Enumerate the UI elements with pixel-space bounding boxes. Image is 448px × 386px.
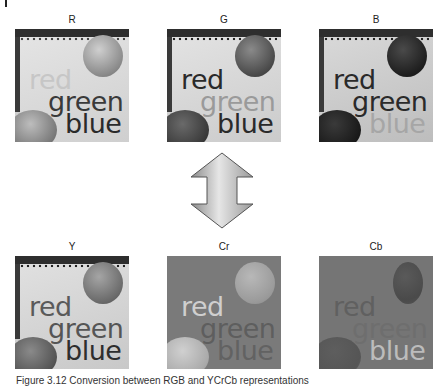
- page-edge-mark: [5, 0, 7, 7]
- label-y: Y: [15, 242, 129, 252]
- word-blue: blue: [217, 111, 273, 137]
- apple-image: [235, 262, 275, 304]
- apple-image: [235, 35, 275, 77]
- image-b-channel: red green blue: [319, 29, 433, 142]
- image-cr-channel: red green blue: [167, 256, 281, 369]
- word-blue: blue: [65, 111, 121, 137]
- label-g: G: [167, 15, 281, 25]
- label-r: R: [15, 15, 129, 25]
- image-r-channel: red green blue: [15, 29, 129, 142]
- word-blue: blue: [65, 338, 121, 364]
- label-cr: Cr: [167, 242, 281, 252]
- word-blue: blue: [369, 111, 425, 137]
- word-blue: blue: [217, 338, 273, 364]
- label-b: B: [319, 15, 433, 25]
- double-arrow-icon: [190, 152, 254, 229]
- apple-image: [393, 262, 423, 304]
- word-blue: blue: [369, 338, 425, 364]
- image-y-channel: red green blue: [15, 256, 129, 369]
- apple-image: [83, 35, 123, 77]
- label-cb: Cb: [319, 242, 433, 252]
- image-g-channel: red green blue: [167, 29, 281, 142]
- image-cb-channel: red green blue: [319, 256, 433, 369]
- apple-image: [83, 262, 123, 304]
- apple-image: [387, 35, 427, 77]
- figure-caption: Figure 3.12 Conversion between RGB and Y…: [16, 375, 309, 386]
